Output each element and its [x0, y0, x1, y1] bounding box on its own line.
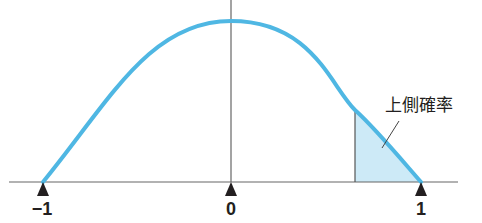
tick-marker-minus-one: [37, 182, 49, 196]
tick-marker-one: [415, 182, 427, 196]
annotation-pointer: [382, 121, 399, 148]
upper-tail-probability-label: 上側確率: [385, 97, 453, 114]
tick-label-minus-one: −1: [32, 200, 53, 218]
tick-marker-zero: [225, 182, 237, 196]
tick-label-zero: 0: [226, 200, 236, 218]
tick-label-one: 1: [416, 200, 426, 218]
